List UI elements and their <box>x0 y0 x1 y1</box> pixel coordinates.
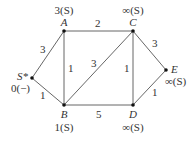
weight-S-A: 3 <box>40 43 46 55</box>
label-A: A <box>60 16 68 28</box>
label-D: D <box>128 108 137 120</box>
weighted-graph: 3 1 2 1 3 1 3 5 1 S* 0(−) A 3(S) C ∞(S) … <box>0 0 194 144</box>
value-D: ∞(S) <box>122 121 144 134</box>
weight-B-C: 3 <box>91 57 97 69</box>
weight-S-B: 1 <box>40 89 46 101</box>
weight-A-C: 2 <box>95 17 101 29</box>
edge-S-A <box>32 31 64 78</box>
node-B <box>62 103 66 107</box>
node-S <box>30 76 34 80</box>
node-A <box>62 29 66 33</box>
value-C: ∞(S) <box>122 4 144 17</box>
weight-B-D: 5 <box>96 108 102 120</box>
label-E: E <box>170 63 178 75</box>
edge-B-C <box>64 31 133 105</box>
value-B: 1(S) <box>55 121 74 134</box>
weight-D-E: 1 <box>152 86 158 98</box>
value-E: ∞(S) <box>165 75 187 88</box>
value-A: 3(S) <box>55 4 74 17</box>
label-S: S* <box>17 70 29 82</box>
label-C: C <box>129 16 137 28</box>
node-E <box>164 68 168 72</box>
value-S: 0(−) <box>11 82 30 95</box>
node-D <box>131 103 135 107</box>
edge-D-E <box>133 70 166 105</box>
weight-A-B: 1 <box>68 62 74 74</box>
weight-C-D: 1 <box>124 62 130 74</box>
node-C <box>131 29 135 33</box>
label-B: B <box>61 108 68 120</box>
weight-C-E: 3 <box>152 37 158 49</box>
edge-S-B <box>32 78 64 105</box>
edge-C-E <box>133 31 166 70</box>
